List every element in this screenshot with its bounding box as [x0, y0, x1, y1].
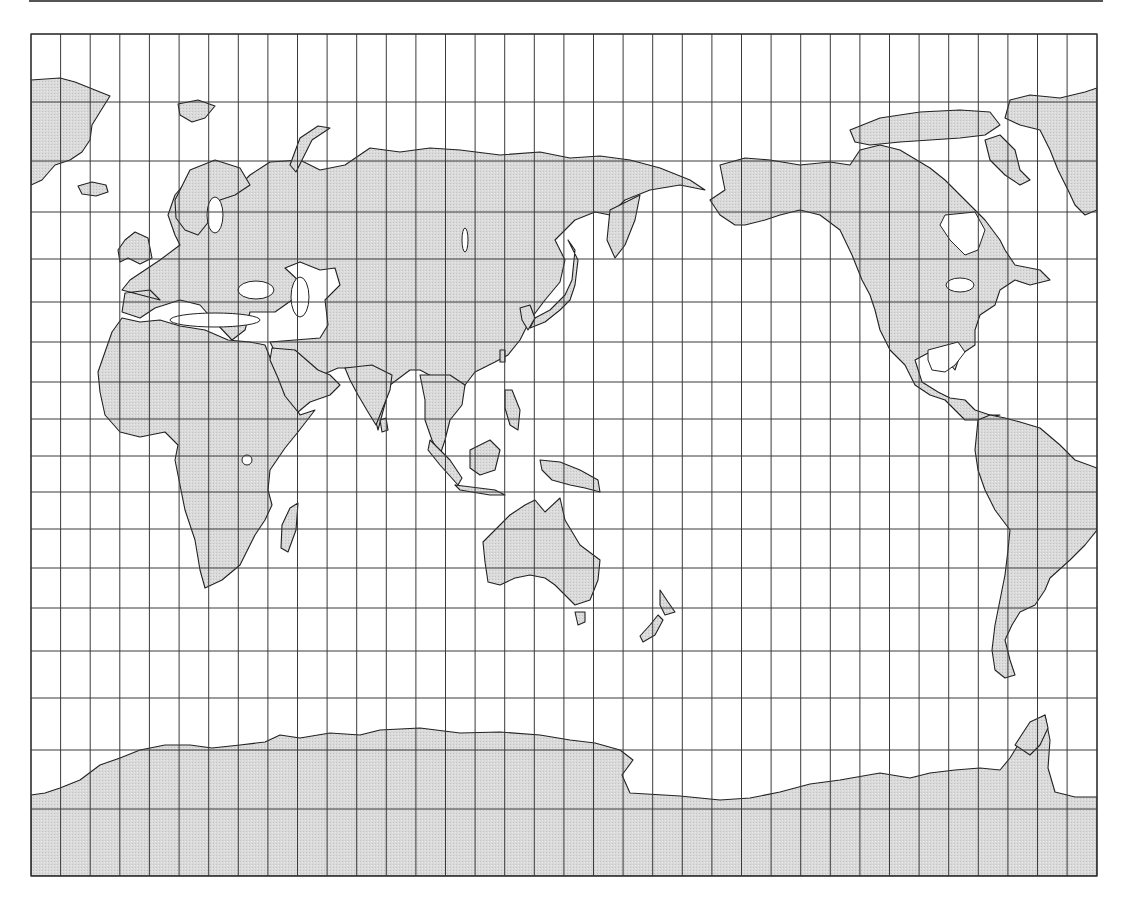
- north-america-landmass: [710, 145, 1050, 420]
- world-map: [0, 0, 1126, 907]
- madagascar-landmass: [281, 503, 298, 552]
- greenland-east-landmass: [1005, 88, 1097, 215]
- arctic-isles-landmass: [850, 110, 1000, 145]
- borneo-landmass: [470, 440, 500, 475]
- black-sea: [238, 281, 274, 299]
- lake-baikal: [462, 228, 468, 252]
- australia-landmass: [483, 498, 600, 605]
- java-landmass: [455, 485, 505, 495]
- greenland-west-landmass: [31, 78, 110, 185]
- indochina-landmass: [420, 375, 465, 455]
- baltic-sea: [207, 197, 223, 233]
- tasmania-landmass: [575, 612, 585, 625]
- svalbard-landmass: [178, 100, 215, 122]
- great-lakes: [946, 278, 974, 292]
- south-america-landmass: [975, 415, 1097, 678]
- new-zealand-n-landmass: [660, 590, 675, 615]
- philippines-landmass: [505, 390, 520, 430]
- new-guinea-landmass: [540, 460, 600, 492]
- india-landmass: [345, 365, 392, 425]
- new-zealand-s-landmass: [640, 615, 663, 642]
- mediterranean: [170, 313, 260, 327]
- caspian-sea: [291, 277, 309, 317]
- iceland-landmass: [78, 182, 108, 196]
